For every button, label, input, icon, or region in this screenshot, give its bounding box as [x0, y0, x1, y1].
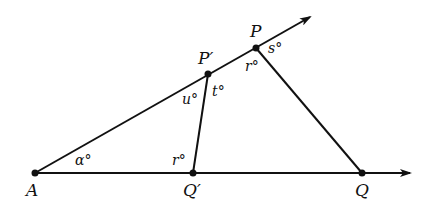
segment-pprime-qprime: [193, 74, 208, 173]
angle-t: t°: [212, 83, 225, 99]
point-pprime: [205, 71, 212, 78]
point-p: [253, 45, 260, 52]
angle-s: s°: [268, 40, 282, 56]
label-q: Q: [355, 180, 369, 200]
angle-r-at-p: r°: [245, 58, 259, 74]
label-qprime: Q′: [183, 180, 201, 200]
label-p: P: [249, 21, 262, 41]
angle-r-at-qprime: r°: [172, 152, 186, 168]
angle-alpha: α°: [75, 152, 91, 168]
angle-u: u°: [182, 91, 198, 107]
label-a: A: [24, 180, 38, 200]
label-pprime: P′: [197, 48, 213, 68]
point-qprime: [190, 170, 197, 177]
point-a: [32, 170, 39, 177]
geometry-diagram: A P′ P Q′ Q α° u° t° r° s° r°: [0, 0, 426, 214]
point-q: [359, 170, 366, 177]
segment-p-q: [256, 48, 362, 173]
